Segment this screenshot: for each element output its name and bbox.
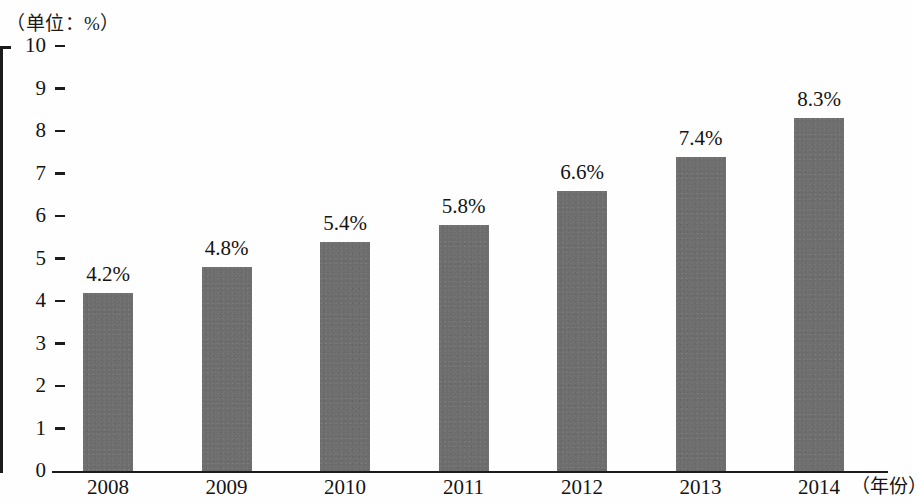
x-axis-tick-label: 2011 [414,477,514,498]
y-axis-tick-labels: 012345678910 [0,0,46,504]
x-axis-tick-label: 2010 [295,477,395,498]
y-axis-tick-label: 3 [6,333,46,354]
bar-value-label: 8.3% [774,89,864,110]
y-axis-tick-label: 0 [6,460,46,481]
bar-value-label: 4.8% [182,238,272,259]
y-axis-tick [55,130,65,132]
bar [676,157,726,472]
bar-value-label: 6.6% [537,162,627,183]
y-axis-tick-label: 10 [6,35,46,56]
bar-value-label: 5.4% [300,213,390,234]
y-axis-tick-label: 1 [6,418,46,439]
y-axis-tick [55,342,65,344]
bar [320,242,370,472]
bar [794,118,844,471]
y-axis-tick-label: 8 [6,120,46,141]
y-axis-tick-label: 7 [6,163,46,184]
y-axis-tick-label: 5 [6,248,46,269]
y-axis-tick [55,45,65,47]
x-axis-tick-label: 2009 [177,477,277,498]
y-axis-tick [55,427,65,429]
y-axis-tick [55,87,65,89]
x-axis-tick-label: 2008 [58,477,158,498]
y-axis-tick-label: 6 [6,205,46,226]
y-axis-tick [55,257,65,259]
x-axis-title: （年份） [851,477,919,496]
y-axis-tick-label: 9 [6,78,46,99]
bar [202,267,252,471]
x-axis-tick-label: 2013 [651,477,751,498]
y-axis-tick [55,172,65,174]
y-axis-tick-label: 4 [6,290,46,311]
y-axis-tick [55,215,65,217]
y-axis-tick-label: 2 [6,375,46,396]
bar-value-label: 7.4% [656,128,746,149]
bar [83,293,133,472]
x-axis-tick-label: 2012 [532,477,632,498]
bar [557,191,607,472]
bar-value-label: 5.8% [419,196,509,217]
bar-value-label: 4.2% [63,264,153,285]
y-axis-tick [55,385,65,387]
bar [439,225,489,472]
y-axis-tick [55,300,65,302]
